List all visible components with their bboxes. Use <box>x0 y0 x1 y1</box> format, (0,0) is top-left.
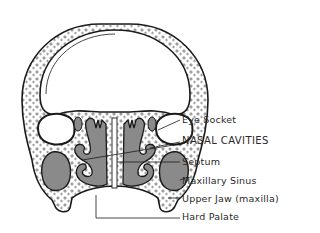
left-eye-socket <box>38 114 74 145</box>
septum <box>112 118 117 188</box>
label-septum: Septum <box>182 156 220 167</box>
label-nasal-cavities: NASAL CAVITIES <box>182 135 269 146</box>
label-maxillary-sinus: Maxillary Sinus <box>182 175 257 186</box>
label-hard-palate: Hard Palate <box>182 211 239 222</box>
label-eye-socket: Eye Socket <box>182 114 236 125</box>
left-maxillary-sinus <box>42 152 71 191</box>
label-upper-jaw: Upper Jaw (maxilla) <box>182 193 279 204</box>
